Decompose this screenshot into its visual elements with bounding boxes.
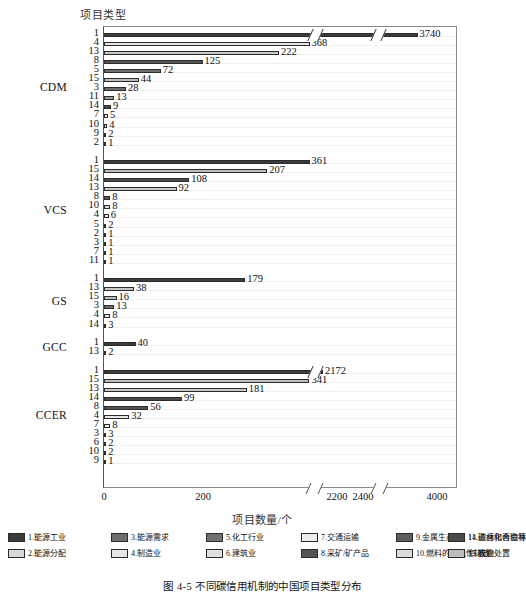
figure-caption: 图 4-5 不同碳信用机制的中国项目类型分布 xyxy=(0,578,525,593)
legend-swatch-4 xyxy=(111,549,128,558)
legend-item-5: 5.化工行业 xyxy=(206,533,264,542)
bar-value-label: 179 xyxy=(247,274,263,284)
legend-swatch-1 xyxy=(8,533,25,542)
bar xyxy=(104,251,106,255)
x-tick-label: 2200 xyxy=(327,491,348,502)
bar-value-label: 99 xyxy=(184,393,195,403)
bar-value-label: 72 xyxy=(163,65,174,75)
gridline xyxy=(104,445,456,446)
legend-label-5: 5.化工行业 xyxy=(226,533,264,542)
gridline xyxy=(104,418,456,419)
gridline xyxy=(104,145,456,146)
bar xyxy=(104,60,203,64)
legend-swatch-10 xyxy=(396,549,413,558)
x-axis-title: 项目数量/个 xyxy=(0,511,525,527)
bar-value-label: 108 xyxy=(191,174,207,184)
bar xyxy=(104,169,267,173)
group-label-ccer: CCER xyxy=(11,410,67,421)
gridline xyxy=(104,263,456,264)
y-tick-label: 14 xyxy=(75,319,99,329)
bar xyxy=(104,242,106,246)
bar xyxy=(104,351,106,355)
y-tick-label: 2 xyxy=(75,137,99,147)
bar-value-label: 1 xyxy=(108,138,113,148)
gridline xyxy=(104,217,456,218)
gridline xyxy=(104,254,456,255)
bar xyxy=(104,451,106,455)
bar-value-label: 13 xyxy=(116,301,127,311)
legend-item-3: 3.能源需求 xyxy=(111,533,169,542)
legend-label-4: 4.制造业 xyxy=(131,549,161,558)
legend-swatch-5 xyxy=(206,533,223,542)
bar xyxy=(104,42,310,46)
legend-item-7: 7.交通运输 xyxy=(301,533,359,542)
bar-value-label: 2172 xyxy=(325,366,346,376)
x-tick-label: 200 xyxy=(195,491,211,502)
group-label-vcs: VCS xyxy=(11,205,67,216)
gridline xyxy=(104,317,456,318)
bar-value-label: 32 xyxy=(131,411,142,421)
bar-value-label: 1 xyxy=(108,456,113,466)
bar-value-label: 3740 xyxy=(420,29,441,39)
group-label-gcc: GCC xyxy=(11,342,67,353)
x-tick-label: 0 xyxy=(101,491,106,502)
gridline xyxy=(104,354,456,355)
legend-swatch-15 xyxy=(448,549,465,558)
bar xyxy=(104,205,110,209)
gridline xyxy=(104,117,456,118)
bar-value-label: 2 xyxy=(108,347,113,357)
bar-value-label: 92 xyxy=(179,183,190,193)
bar xyxy=(104,214,109,218)
y-tick-label: 11 xyxy=(75,255,99,265)
legend-item-14: 14.造林和再造林 xyxy=(448,533,526,542)
legend-label-6: 6.建筑业 xyxy=(226,549,256,558)
bar-value-label: 40 xyxy=(138,338,149,348)
bar-value-label: 28 xyxy=(128,83,139,93)
bar-value-label: 38 xyxy=(136,283,147,293)
y-tick-label: 9 xyxy=(75,455,99,465)
bar-value-label: 181 xyxy=(249,384,265,394)
gridline xyxy=(104,245,456,246)
bar xyxy=(104,33,418,37)
legend-label-8: 8.采矿/矿产品 xyxy=(321,549,369,558)
gridline xyxy=(104,327,456,328)
gridline xyxy=(104,236,456,237)
legend-swatch-6 xyxy=(206,549,223,558)
legend-item-15: 15.农业 xyxy=(448,549,494,558)
bar-value-label: 222 xyxy=(281,47,297,57)
bar-value-label: 44 xyxy=(141,74,152,84)
bar xyxy=(104,51,279,55)
y-tick-label: 13 xyxy=(75,346,99,356)
legend-swatch-3 xyxy=(111,533,128,542)
gridline xyxy=(104,308,456,309)
gridline xyxy=(104,463,456,464)
bar xyxy=(104,260,106,264)
x-tick-label: 4000 xyxy=(427,491,448,502)
gridline xyxy=(104,208,456,209)
legend-swatch-2 xyxy=(8,549,25,558)
legend-label-7: 7.交通运输 xyxy=(321,533,359,542)
gridline xyxy=(104,290,456,291)
legend-swatch-14 xyxy=(448,533,465,542)
gridline xyxy=(104,299,456,300)
y-axis-title: 项目类型 xyxy=(80,6,126,22)
bar-value-label: 361 xyxy=(312,156,328,166)
gridline xyxy=(104,227,456,228)
bar xyxy=(104,196,110,200)
bar xyxy=(104,114,108,118)
gridline xyxy=(104,127,456,128)
gridline xyxy=(104,345,456,346)
legend-swatch-8 xyxy=(301,549,318,558)
bar xyxy=(104,133,106,137)
gridline xyxy=(104,99,456,100)
bar xyxy=(104,224,106,228)
bar-value-label: 207 xyxy=(269,165,285,175)
gridline xyxy=(104,90,456,91)
bar xyxy=(104,178,189,182)
legend-label-3: 3.能源需求 xyxy=(131,533,169,542)
legend-label-14: 14.造林和再造林 xyxy=(468,533,526,542)
legend-item-2: 2.能源分配 xyxy=(8,549,66,558)
bar xyxy=(104,433,106,437)
legend-swatch-7 xyxy=(301,533,318,542)
